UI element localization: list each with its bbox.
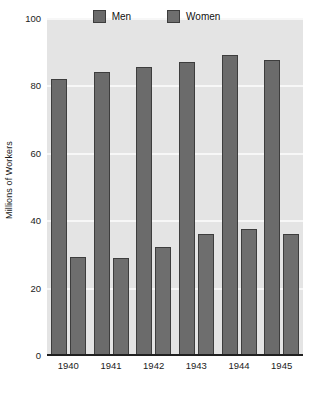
bar-chart: Millions of Workers 020406080100 1940194… [0, 0, 313, 396]
bar-women-1940 [70, 257, 86, 355]
x-tick-label: 1944 [228, 360, 249, 371]
x-axis-line [47, 354, 303, 356]
bar-men-1945 [264, 60, 280, 355]
bar-women-1944 [241, 229, 257, 355]
bar-group-1943 [179, 18, 214, 355]
bar-women-1943 [198, 234, 214, 355]
bar-women-1942 [155, 247, 171, 355]
x-tick-label: 1940 [58, 360, 79, 371]
y-tick-label: 20 [30, 282, 41, 293]
y-axis-title-label: Millions of Workers [4, 141, 14, 219]
y-tick-label: 40 [30, 215, 41, 226]
bar-men-1943 [179, 62, 195, 355]
y-tick-label: 0 [36, 350, 41, 361]
bar-group-1944 [222, 18, 257, 355]
y-axis-title: Millions of Workers [0, 0, 18, 360]
x-tick-label: 1942 [143, 360, 164, 371]
bar-women-1941 [113, 258, 129, 355]
bar-group-1940 [51, 18, 86, 355]
y-tick-label: 80 [30, 80, 41, 91]
bar-men-1940 [51, 79, 67, 355]
y-tick-label: 60 [30, 147, 41, 158]
x-axis-tick-labels: 194019411942194319441945 [47, 357, 303, 377]
bars-layer [47, 18, 303, 355]
x-tick-label: 1943 [186, 360, 207, 371]
y-axis-tick-labels: 020406080100 [18, 0, 45, 396]
bar-group-1941 [94, 18, 129, 355]
x-tick-label: 1941 [100, 360, 121, 371]
x-tick-label: 1945 [271, 360, 292, 371]
bar-group-1942 [136, 18, 171, 355]
bar-group-1945 [264, 18, 299, 355]
bar-women-1945 [283, 234, 299, 355]
y-tick-label: 100 [25, 13, 41, 24]
plot-area [47, 18, 303, 355]
bar-men-1944 [222, 55, 238, 355]
bar-men-1942 [136, 67, 152, 355]
bar-men-1941 [94, 72, 110, 355]
